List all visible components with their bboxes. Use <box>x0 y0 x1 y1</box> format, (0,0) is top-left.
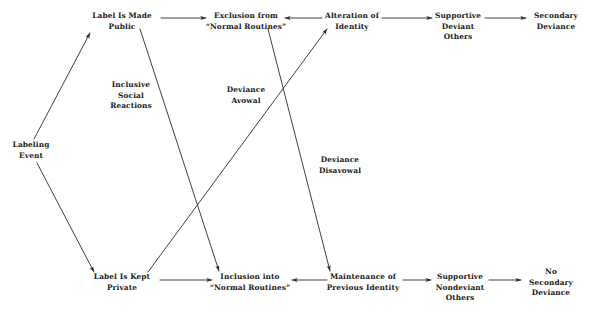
edge-labeling-to-public <box>34 33 90 139</box>
edge-public-to-inclusion <box>140 29 219 271</box>
node-labeling_event: Labeling Event <box>13 140 50 161</box>
node-secondary_deviance: Secondary Deviance <box>534 11 578 32</box>
node-exclusion: Exclusion from “Normal Routines” <box>206 11 287 32</box>
node-label_made_public: Label Is Made Public <box>92 11 152 32</box>
labeling-theory-diagram: Labeling EventLabel Is Made PublicExclus… <box>0 0 603 314</box>
node-supportive_nondeviant: Supportive Nondeviant Others <box>436 272 485 304</box>
diagram-edges-layer <box>0 0 603 314</box>
edge-private-to-alteration <box>148 29 327 272</box>
edge-label-deviance_avowal: Deviance Avowal <box>227 85 265 106</box>
edge-exclusion-to-maintenance <box>268 29 330 271</box>
node-maintenance_identity: Maintenance of Previous Identity <box>327 272 400 293</box>
node-no_secondary_deviance: No Secondary Deviance <box>525 267 577 299</box>
edge-label-inclusive_social_reactions: Inclusive Social Reactions <box>110 80 152 112</box>
node-label_kept_private: Label Is Kept Private <box>94 272 150 293</box>
edge-label-deviance_disavowal: Deviance Disavowal <box>319 155 361 176</box>
node-supportive_deviant: Supportive Deviant Others <box>435 11 481 43</box>
edge-labeling-to-private <box>37 163 94 272</box>
node-inclusion: Inclusion into “Normal Routines” <box>210 272 291 293</box>
node-alteration_identity: Alteration of Identity <box>325 11 379 32</box>
